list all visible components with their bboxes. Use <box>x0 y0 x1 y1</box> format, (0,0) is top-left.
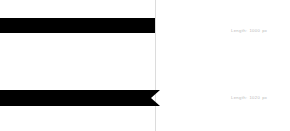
length-label-top-value: 1000 <box>249 28 260 33</box>
diagram-canvas: Length:1000px Length:1020px <box>0 0 290 131</box>
length-bar-flat <box>0 18 155 33</box>
length-label-top: Length:1000px <box>231 29 267 33</box>
length-label-bottom-prefix: Length: <box>231 95 247 100</box>
length-label-bottom-unit: px <box>262 95 267 100</box>
length-label-bottom-value: 1020 <box>249 95 260 100</box>
bar-row-bottom <box>0 90 160 106</box>
bar-row-top <box>0 18 155 33</box>
length-bar-notched <box>0 90 160 106</box>
length-label-top-unit: px <box>262 28 267 33</box>
length-label-bottom: Length:1020px <box>231 96 267 100</box>
reference-guideline <box>155 0 156 131</box>
length-label-top-prefix: Length: <box>231 28 247 33</box>
